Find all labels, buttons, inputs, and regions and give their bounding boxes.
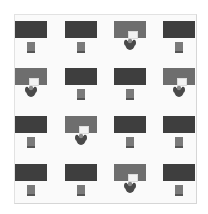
desk-empty[interactable] xyxy=(114,116,146,150)
desk-empty[interactable] xyxy=(65,164,97,198)
chair-icon xyxy=(27,185,35,196)
chair-icon xyxy=(27,42,35,53)
chair-icon xyxy=(27,137,35,148)
chair-icon xyxy=(126,89,134,100)
person-icon xyxy=(74,132,88,146)
chair-icon xyxy=(175,42,183,53)
chair-icon xyxy=(77,42,85,53)
desk-surface xyxy=(65,164,97,181)
desk-occupied[interactable] xyxy=(15,68,47,102)
desk-empty[interactable] xyxy=(114,68,146,102)
desk-surface xyxy=(114,68,146,85)
chair-icon xyxy=(77,89,85,100)
desk-surface xyxy=(15,116,47,133)
desk-surface xyxy=(114,116,146,133)
chair-icon xyxy=(175,185,183,196)
desk-empty[interactable] xyxy=(163,116,195,150)
person-icon xyxy=(123,180,137,194)
desk-occupied[interactable] xyxy=(163,68,195,102)
desk-surface xyxy=(65,68,97,85)
person-icon xyxy=(24,84,38,98)
desk-surface xyxy=(163,21,195,38)
desk-empty[interactable] xyxy=(15,21,47,55)
desk-empty[interactable] xyxy=(15,116,47,150)
desk-empty[interactable] xyxy=(65,68,97,102)
chair-icon xyxy=(77,185,85,196)
desk-occupied[interactable] xyxy=(114,164,146,198)
desk-surface xyxy=(163,116,195,133)
desk-occupied[interactable] xyxy=(114,21,146,55)
desk-empty[interactable] xyxy=(163,164,195,198)
office-floor-plan xyxy=(14,14,197,204)
chair-icon xyxy=(175,137,183,148)
desk-surface xyxy=(163,164,195,181)
desk-empty[interactable] xyxy=(65,21,97,55)
desk-surface xyxy=(65,21,97,38)
desk-empty[interactable] xyxy=(163,21,195,55)
person-icon xyxy=(172,84,186,98)
desk-surface xyxy=(15,164,47,181)
desk-surface xyxy=(15,21,47,38)
desk-occupied[interactable] xyxy=(65,116,97,150)
desk-empty[interactable] xyxy=(15,164,47,198)
person-icon xyxy=(123,37,137,51)
chair-icon xyxy=(126,137,134,148)
